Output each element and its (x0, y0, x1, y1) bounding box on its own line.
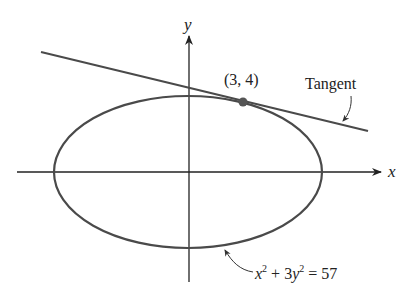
diagram-canvas: y x (3, 4) Tangent x2 + 3y2 = 57 (0, 0, 409, 308)
x-axis-label: x (387, 162, 396, 181)
point-label: (3, 4) (224, 71, 259, 89)
tangent-pointer-arrow (343, 96, 351, 121)
y-axis-label: y (182, 15, 192, 34)
tangent-label: Tangent (305, 75, 357, 93)
equation-pointer-arrow (225, 250, 253, 272)
equation-label: x2 + 3y2 = 57 (254, 263, 337, 283)
tangent-point (239, 98, 248, 107)
